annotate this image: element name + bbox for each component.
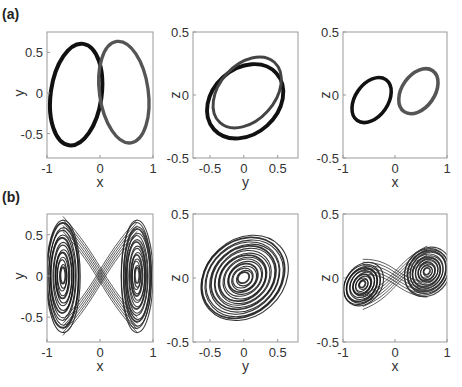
y-tick-label: -0.5 <box>317 335 339 350</box>
y-axis-label: y <box>11 272 27 279</box>
series-left-scroll <box>335 255 391 314</box>
y-axis-label: z <box>317 275 333 282</box>
x-tick-label: 1 <box>149 345 156 360</box>
x-axis-label: x <box>97 358 104 374</box>
x-tick-label: -1 <box>41 345 53 360</box>
plot-area <box>192 44 298 154</box>
y-tick-label: 0.5 <box>321 207 339 222</box>
x-axis-label: x <box>392 358 399 374</box>
x-tick-label: -1 <box>41 161 53 176</box>
x-axis-label: y <box>242 174 249 190</box>
x-tick-label: 1 <box>443 161 450 176</box>
plot-area <box>46 216 153 335</box>
y-tick-label: -0.5 <box>167 335 189 350</box>
y-tick-label: 0 <box>36 269 43 284</box>
y-axis-label: y <box>11 89 27 96</box>
subplot-b-3: -101-0.500.5xz <box>317 207 461 374</box>
y-axis-label: z <box>167 275 183 282</box>
x-axis-label: y <box>242 358 249 374</box>
y-axis-label: z <box>317 92 333 99</box>
series-right-scroll <box>395 238 460 306</box>
y-tick-label: 0.5 <box>171 207 189 222</box>
subplot-a-1: -101-0.500.5xy <box>11 32 157 190</box>
series-left-loop <box>344 70 399 130</box>
x-tick-label: 1 <box>443 345 450 360</box>
y-axis-label: z <box>167 92 183 99</box>
series-right-scroll <box>121 220 153 332</box>
y-tick-label: -0.5 <box>317 151 339 166</box>
subplot-a-2: -0.500.5-0.500.5yz <box>167 25 299 190</box>
plot-area <box>184 218 306 339</box>
x-tick-label: -0.5 <box>199 345 221 360</box>
series-scroll <box>184 218 306 339</box>
plot-area <box>335 238 460 313</box>
plot-area <box>44 38 155 149</box>
series-right-loop <box>391 61 446 121</box>
y-tick-label: 0.5 <box>321 25 339 40</box>
y-tick-label: -0.5 <box>21 310 43 325</box>
x-tick-label: 0.5 <box>269 161 287 176</box>
y-tick-label: 0.5 <box>25 228 43 243</box>
x-tick-label: -0.5 <box>199 161 221 176</box>
y-tick-label: 0 <box>36 86 43 101</box>
x-tick-label: 1 <box>149 161 156 176</box>
x-tick-label: 0.5 <box>269 345 287 360</box>
y-tick-label: 0.5 <box>171 25 189 40</box>
axes-box <box>343 32 447 158</box>
figure-canvas: -101-0.500.5xy-0.500.5-0.500.5yz-101-0.5… <box>0 0 462 387</box>
x-axis-label: x <box>97 174 104 190</box>
y-tick-label: 0.5 <box>25 45 43 60</box>
plot-area <box>344 61 446 130</box>
series-loop-1 <box>192 49 298 154</box>
subplot-b-1: -101-0.500.5xy <box>11 214 157 374</box>
y-tick-label: -0.5 <box>21 127 43 142</box>
subplot-a-3: -101-0.500.5xz <box>317 25 451 190</box>
x-axis-label: x <box>392 174 399 190</box>
subplot-b-2: -0.500.5-0.500.5yz <box>167 207 306 374</box>
y-tick-label: -0.5 <box>167 151 189 166</box>
